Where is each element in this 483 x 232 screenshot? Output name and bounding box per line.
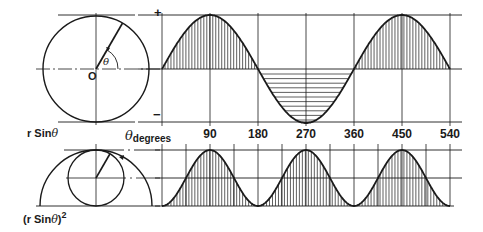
tick-180: 180 xyxy=(248,127,268,141)
tick-90: 90 xyxy=(203,127,216,141)
sine-wave-graph xyxy=(138,13,462,126)
radius-line xyxy=(96,154,110,178)
tick-540: 540 xyxy=(440,127,460,141)
sine-squared-construction xyxy=(36,144,160,206)
tick-450: 450 xyxy=(392,127,412,141)
waveform-diagram xyxy=(0,0,483,232)
radius-line xyxy=(96,23,123,69)
plus-sign: + xyxy=(154,5,162,20)
origin-label: O xyxy=(88,70,97,82)
sine-squared-label: (r Sinθ)2 xyxy=(23,210,66,226)
tick-270: 270 xyxy=(296,127,316,141)
sine-squared-wave-graph xyxy=(155,144,462,206)
angle-theta-label: θ xyxy=(103,56,109,67)
sine-function-label: r Sinθ xyxy=(27,127,58,140)
tick-360: 360 xyxy=(344,127,364,141)
minus-sign: − xyxy=(153,107,161,122)
x-axis-label: θdegrees xyxy=(125,126,171,144)
